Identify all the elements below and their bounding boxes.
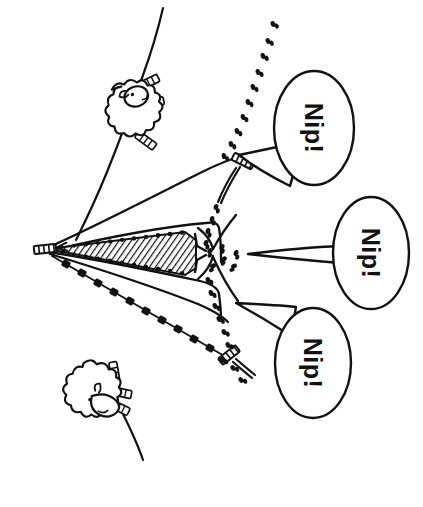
speech-bubble-top-text: Nip! [300, 103, 328, 154]
illustration-canvas: Nip! Nip! Nip! [0, 0, 423, 507]
speech-bubble-middle-text: Nip! [357, 228, 385, 279]
scene-svg: Nip! Nip! Nip! [0, 0, 423, 507]
speech-bubble-bottom-text: Nip! [299, 338, 327, 389]
